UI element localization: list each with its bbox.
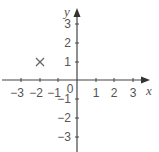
x-tick-label: 1 bbox=[93, 86, 100, 100]
x-axis-label: x bbox=[145, 83, 152, 98]
y-axis-arrow-icon bbox=[74, 8, 81, 17]
y-axis-label: y bbox=[62, 4, 70, 19]
coordinate-plane: −3 −2 −1 1 2 3 0 3 2 1 −1 −2 −3 x y bbox=[0, 0, 159, 152]
y-tick-label: 3 bbox=[64, 17, 71, 31]
x-tick-label: 3 bbox=[130, 86, 137, 100]
y-tick-label: −2 bbox=[57, 111, 71, 125]
y-tick-label: −1 bbox=[57, 92, 71, 106]
y-tick-label: −3 bbox=[57, 130, 71, 144]
x-tick-label: −2 bbox=[29, 86, 43, 100]
x-tick-label: 2 bbox=[111, 86, 118, 100]
y-tick-label: 2 bbox=[64, 36, 71, 50]
y-tick-label: 1 bbox=[64, 55, 71, 69]
cross-marker-icon bbox=[36, 58, 44, 66]
x-tick-label: −3 bbox=[10, 86, 24, 100]
